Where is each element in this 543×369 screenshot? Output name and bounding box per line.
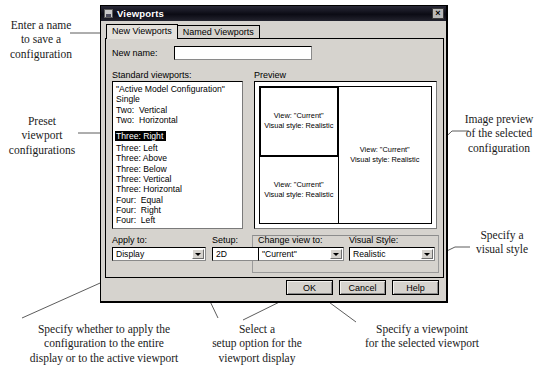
ok-button[interactable]: OK bbox=[286, 280, 333, 295]
change-view-to-label: Change view to: bbox=[258, 235, 344, 245]
standard-viewports-label: Standard viewports: bbox=[112, 70, 192, 80]
dialog-title: Viewports bbox=[117, 8, 432, 19]
visual-style-label: Visual Style: bbox=[349, 235, 435, 245]
list-item[interactable]: Three: Below bbox=[115, 164, 242, 174]
annotation-change-view: Specify a viewpoint for the selected vie… bbox=[346, 322, 498, 351]
dialog-body: New name: Standard viewports: "Active Mo… bbox=[105, 38, 444, 278]
change-view-to-dropdown[interactable]: "Current" bbox=[258, 247, 344, 261]
preview-pane-bottom-left[interactable]: View: "Current" Visual style: Realistic bbox=[259, 156, 339, 225]
apply-to-dropdown[interactable]: Display bbox=[112, 247, 206, 261]
close-icon[interactable]: × bbox=[432, 8, 444, 19]
annotation-preset-configs: Preset viewport configurations bbox=[2, 114, 82, 157]
visual-style-dropdown[interactable]: Realistic bbox=[349, 247, 435, 261]
new-name-row: New name: bbox=[112, 46, 312, 60]
preview-right-column: View: "Current" Visual style: Realistic bbox=[339, 86, 432, 224]
window-icon bbox=[104, 9, 113, 18]
list-item[interactable]: Four: Right bbox=[115, 205, 242, 215]
annotation-image-preview: Image preview of the selected configurat… bbox=[456, 112, 542, 155]
standard-viewports-list[interactable]: "Active Model Configuration" Single Two:… bbox=[112, 81, 243, 229]
change-view-to-control: Change view to: "Current" bbox=[258, 235, 344, 261]
new-name-input[interactable] bbox=[174, 46, 312, 60]
annotation-enter-name: Enter a name to save a configuration bbox=[2, 18, 80, 61]
list-item[interactable]: Three: Vertical bbox=[115, 174, 242, 184]
list-item[interactable]: Four: Equal bbox=[115, 195, 242, 205]
chevron-down-icon[interactable] bbox=[192, 249, 204, 259]
preview-pane-right[interactable]: View: "Current" Visual style: Realistic bbox=[338, 86, 432, 224]
list-item-selected[interactable]: Three: Right bbox=[115, 131, 166, 141]
chevron-down-icon[interactable] bbox=[330, 249, 342, 259]
list-item[interactable]: "Active Model Configuration" bbox=[115, 84, 242, 94]
new-name-label: New name: bbox=[112, 48, 174, 58]
list-item[interactable]: Three: Left bbox=[115, 143, 242, 153]
annotation-apply-to: Specify whether to apply the configurati… bbox=[8, 322, 200, 365]
list-item[interactable]: Four: Left bbox=[115, 215, 242, 225]
setup-value: 2D bbox=[216, 249, 227, 259]
list-item[interactable]: Two: Horizontal bbox=[115, 115, 242, 125]
list-item[interactable]: Single bbox=[115, 94, 242, 104]
preview-panel: View: "Current" Visual style: Realistic … bbox=[254, 81, 437, 229]
chevron-down-icon[interactable] bbox=[421, 249, 433, 259]
apply-to-label: Apply to: bbox=[112, 235, 206, 245]
change-view-to-value: "Current" bbox=[262, 249, 297, 259]
list-item[interactable]: Three: Above bbox=[115, 153, 242, 163]
cancel-button[interactable]: Cancel bbox=[339, 280, 386, 295]
help-button[interactable]: Help bbox=[392, 280, 439, 295]
visual-style-value: Realistic bbox=[353, 249, 385, 259]
visual-style-control: Visual Style: Realistic bbox=[349, 235, 435, 261]
annotation-visual-style: Specify a visual style bbox=[462, 228, 542, 257]
list-item[interactable]: Three: Horizontal bbox=[115, 184, 242, 194]
viewports-dialog: Viewports × New Viewports Named Viewport… bbox=[100, 5, 448, 303]
preview-label: Preview bbox=[254, 70, 286, 80]
tab-named-viewports[interactable]: Named Viewports bbox=[177, 25, 260, 39]
dialog-titlebar[interactable]: Viewports × bbox=[101, 6, 446, 21]
tab-new-viewports[interactable]: New Viewports bbox=[106, 24, 178, 39]
list-item[interactable]: Two: Vertical bbox=[115, 105, 242, 115]
tab-strip: New Viewports Named Viewports bbox=[106, 24, 446, 39]
apply-to-value: Display bbox=[116, 249, 144, 259]
dialog-button-row: OK Cancel Help bbox=[286, 280, 439, 295]
preview-pane-top-left[interactable]: View: "Current" Visual style: Realistic bbox=[259, 86, 339, 157]
apply-to-control: Apply to: Display bbox=[112, 235, 206, 261]
annotation-setup: Select a setup option for the viewport d… bbox=[192, 322, 322, 365]
preview-left-column: View: "Current" Visual style: Realistic … bbox=[259, 86, 339, 224]
